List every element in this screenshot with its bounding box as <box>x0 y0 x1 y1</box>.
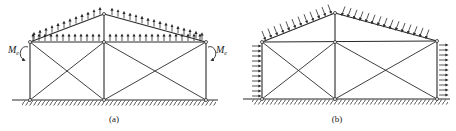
figure-a <box>12 9 218 106</box>
moment-label-right: Me <box>215 44 227 56</box>
moment-arrow-right <box>208 47 216 60</box>
moment-label-left: Me <box>7 44 19 56</box>
roof-load-arrows-b <box>262 5 429 39</box>
figure-b <box>243 5 450 105</box>
left-wall-load-arrows-b <box>252 46 260 96</box>
chord-load-arrows-a <box>33 35 200 41</box>
ground-hatch-b <box>252 100 448 105</box>
caption-a: (a) <box>109 114 119 124</box>
ground-hatch-a <box>22 101 216 106</box>
right-wall-load-arrows-b <box>439 45 447 95</box>
diagram-canvas: Me Me (a) <box>0 0 456 131</box>
roof-load-arrows-a <box>34 9 202 40</box>
caption-b: (b) <box>332 114 343 124</box>
moment-arrow-left <box>20 47 28 60</box>
